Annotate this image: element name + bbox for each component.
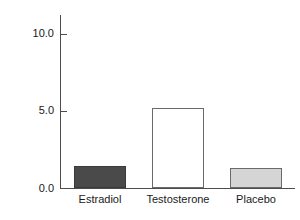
x-tick-label-estradiol: Estradiol [61,192,139,206]
y-tick-label-0: 0.0 [20,183,54,194]
x-tick-label-placebo: Placebo [217,192,295,206]
x-axis-tick-labels: Estradiol Testosterone Placebo [61,192,295,212]
y-tick-mark-0 [61,188,67,189]
x-axis-line [60,188,295,189]
bar-estradiol[interactable] [74,166,125,188]
y-tick-label-2: 10.0 [20,28,54,39]
bar-chart-figure: Frequency of fighting 0.0 5.0 10.0 Estra… [0,0,300,220]
bar-testosterone[interactable] [152,108,203,188]
bar-placebo[interactable] [230,168,281,188]
x-tick-label-testosterone: Testosterone [139,192,217,206]
y-axis-tick-labels: 0.0 5.0 10.0 [18,0,54,220]
y-tick-label-1: 5.0 [20,105,54,116]
plot-area [61,15,295,188]
